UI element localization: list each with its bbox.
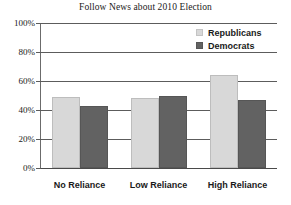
- bar-democrats-high-reliance: [238, 100, 266, 168]
- y-axis-tick-mark: [36, 110, 41, 111]
- legend-label: Democrats: [208, 41, 255, 51]
- bar-democrats-low-reliance: [159, 96, 187, 169]
- legend-label: Republicans: [208, 28, 262, 38]
- y-axis-tick-label: 0%: [1, 164, 35, 173]
- gridline: [40, 23, 277, 24]
- y-axis-tick-mark: [36, 52, 41, 53]
- x-axis-category-label: Low Reliance: [119, 180, 198, 190]
- bar-republicans-high-reliance: [210, 75, 238, 168]
- legend-item: Democrats: [196, 39, 262, 52]
- bar-republicans-low-reliance: [131, 98, 159, 168]
- x-axis-category-label: High Reliance: [198, 180, 277, 190]
- y-axis-tick-label: 40%: [1, 106, 35, 115]
- legend-swatch-icon: [196, 29, 203, 36]
- chart-legend: RepublicansDemocrats: [196, 26, 262, 52]
- y-axis-tick-label: 80%: [1, 48, 35, 57]
- chart-title: Follow News about 2010 Election: [0, 2, 291, 12]
- y-axis-tick-label: 100%: [1, 19, 35, 28]
- y-axis-tick-mark: [36, 168, 41, 169]
- gridline: [40, 81, 277, 82]
- y-axis-tick-label: 20%: [1, 135, 35, 144]
- bar-chart: Follow News about 2010 Election 100%80%6…: [0, 0, 291, 205]
- legend-swatch-icon: [196, 42, 203, 49]
- legend-item: Republicans: [196, 26, 262, 39]
- y-axis-tick-mark: [36, 81, 41, 82]
- y-axis-tick-mark: [36, 23, 41, 24]
- bar-democrats-no-reliance: [80, 106, 108, 168]
- y-axis-tick-labels: 100%80%60%40%20%0%: [0, 0, 35, 205]
- y-axis-tick-label: 60%: [1, 77, 35, 86]
- bar-republicans-no-reliance: [52, 97, 80, 168]
- y-axis-tick-mark: [36, 139, 41, 140]
- x-axis-category-label: No Reliance: [40, 180, 119, 190]
